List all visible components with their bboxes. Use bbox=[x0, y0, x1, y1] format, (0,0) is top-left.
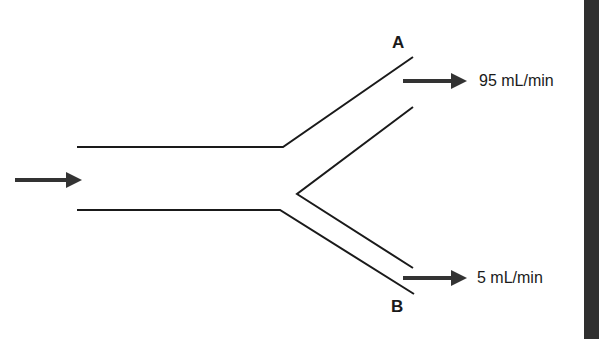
inlet-arrow-icon bbox=[15, 172, 82, 188]
branch-a-label: A bbox=[392, 33, 404, 53]
outlet-arrow-a-icon bbox=[403, 73, 467, 89]
branch-b-flow-rate: 5 mL/min bbox=[477, 269, 543, 287]
branch-b-label: B bbox=[391, 297, 403, 317]
main-tube bbox=[77, 57, 414, 294]
lower-wall bbox=[77, 210, 414, 294]
branch-a-flow-rate: 95 mL/min bbox=[479, 72, 554, 90]
outlet-arrow-b-icon bbox=[403, 270, 467, 286]
right-edge-bar bbox=[584, 0, 599, 339]
upper-wall bbox=[77, 57, 413, 147]
inner-fork-wall bbox=[297, 107, 413, 268]
branching-tube-diagram bbox=[0, 0, 603, 339]
